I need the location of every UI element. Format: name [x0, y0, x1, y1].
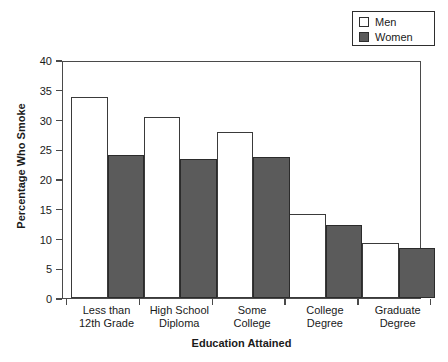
- legend-item-women: Women: [359, 29, 434, 44]
- x-category-label-line1: Less than: [83, 304, 131, 316]
- x-category-label-line1: Graduate: [375, 304, 421, 316]
- filled-square-swatch-icon: [359, 32, 369, 42]
- bar-women-4: [399, 248, 436, 298]
- y-axis-title: Percentage Who Smoke: [15, 76, 27, 256]
- bar-women-2: [253, 157, 290, 298]
- bar-men-1: [144, 117, 181, 298]
- x-category-label-line1: College: [306, 304, 343, 316]
- smoking-by-education-bar-chart: Men Women 0 5 10 15 20 25: [0, 0, 448, 362]
- bar-men-3: [289, 214, 326, 298]
- plot-area: [62, 61, 421, 299]
- x-category-label-4: GraduateDegree: [353, 304, 443, 330]
- x-category-label-line1: High School: [150, 304, 209, 316]
- legend-item-men: Men: [359, 14, 434, 29]
- bar-women-3: [326, 225, 363, 298]
- legend-label-women: Women: [375, 31, 413, 43]
- legend-label-men: Men: [375, 16, 396, 28]
- x-category-label-line1: Some: [238, 304, 267, 316]
- chart-legend: Men Women: [352, 11, 435, 46]
- bar-men-0: [71, 97, 108, 298]
- bar-men-2: [217, 132, 254, 298]
- y-axis: 0 5 10 15 20 25 30 35: [0, 0, 62, 362]
- bar-women-1: [180, 159, 217, 298]
- bar-women-0: [108, 155, 145, 298]
- bar-men-4: [362, 243, 399, 298]
- x-category-label-line2: Degree: [353, 317, 443, 330]
- x-axis-title: Education Attained: [62, 337, 421, 349]
- open-square-swatch-icon: [359, 17, 369, 27]
